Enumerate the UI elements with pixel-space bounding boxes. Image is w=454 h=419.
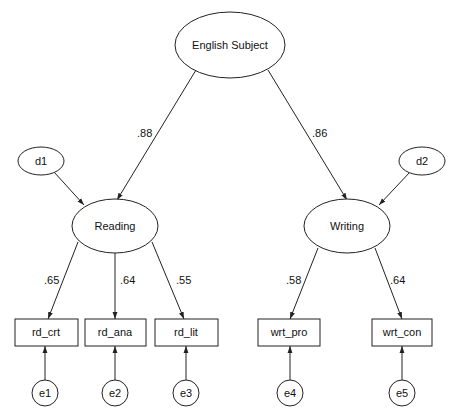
label-rd-crt: rd_crt <box>32 326 60 338</box>
label-rd-ana: rd_ana <box>98 326 133 338</box>
label-e3: e3 <box>180 387 192 399</box>
edge-d1-reading <box>54 172 84 205</box>
node-rd-ana: rd_ana <box>85 319 146 346</box>
label-e2: e2 <box>109 387 121 399</box>
node-e2: e2 <box>102 380 128 406</box>
label-wrt-con: wrt_con <box>382 326 422 338</box>
label-e5: e5 <box>396 387 408 399</box>
label-d1: d1 <box>35 155 47 167</box>
sem-diagram: .88 .86 .65 .64 .55 .58 .64 English Subj… <box>0 0 454 419</box>
node-english-subject: English Subject <box>175 12 285 78</box>
edge-english-writing <box>268 70 347 200</box>
coef-writing-wrt-con: .64 <box>390 274 405 286</box>
node-wrt-con: wrt_con <box>372 319 432 346</box>
node-e4: e4 <box>277 380 303 406</box>
coef-reading-rd-crt: .65 <box>44 274 59 286</box>
node-d1: d1 <box>18 147 64 175</box>
coef-writing-wrt-pro: .58 <box>286 274 301 286</box>
node-e3: e3 <box>173 380 199 406</box>
label-wrt-pro: wrt_pro <box>270 326 308 338</box>
coef-english-reading: .88 <box>137 127 152 139</box>
edge-d2-writing <box>379 172 410 205</box>
node-reading: Reading <box>72 199 158 253</box>
label-reading: Reading <box>95 220 136 232</box>
coef-reading-rd-lit: .55 <box>176 274 191 286</box>
node-wrt-pro: wrt_pro <box>258 319 320 346</box>
label-e4: e4 <box>284 387 296 399</box>
label-e1: e1 <box>39 387 51 399</box>
node-e1: e1 <box>32 380 58 406</box>
coef-reading-rd-ana: .64 <box>120 274 135 286</box>
node-rd-lit: rd_lit <box>155 319 218 346</box>
label-writing: Writing <box>330 220 364 232</box>
node-d2: d2 <box>399 147 445 175</box>
label-english-subject: English Subject <box>192 39 268 51</box>
coef-english-writing: .86 <box>312 127 327 139</box>
label-rd-lit: rd_lit <box>174 326 198 338</box>
node-rd-crt: rd_crt <box>15 319 78 346</box>
edge-english-reading <box>117 70 196 200</box>
node-e5: e5 <box>389 380 415 406</box>
node-writing: Writing <box>304 199 390 253</box>
label-d2: d2 <box>416 155 428 167</box>
